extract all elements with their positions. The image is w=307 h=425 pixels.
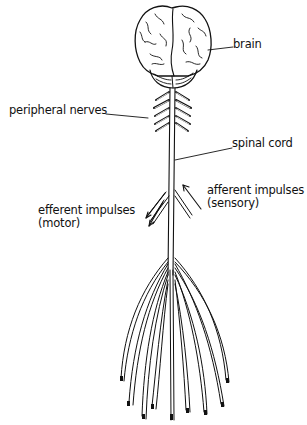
spinal-cord-leader-line	[175, 148, 232, 160]
peripheral-nerve-branches	[154, 92, 191, 131]
nervous-system-diagram: brain peripheral nerves spinal cord affe…	[0, 0, 307, 425]
brain-illustration	[135, 6, 211, 88]
efferent-motor-label: (motor)	[38, 217, 80, 230]
nerve-ends	[120, 376, 229, 420]
peripheral-nerves-label: peripheral nerves	[9, 104, 107, 117]
efferent-branch	[147, 192, 169, 224]
brain-label: brain	[233, 38, 262, 51]
peripheral-nerves-leader-line	[106, 114, 148, 118]
afferent-sensory-label: (sensory)	[207, 197, 259, 210]
lower-nerve-fan	[121, 258, 229, 420]
brain-leader-line	[208, 47, 233, 50]
spinal-cord-label: spinal cord	[232, 137, 293, 150]
